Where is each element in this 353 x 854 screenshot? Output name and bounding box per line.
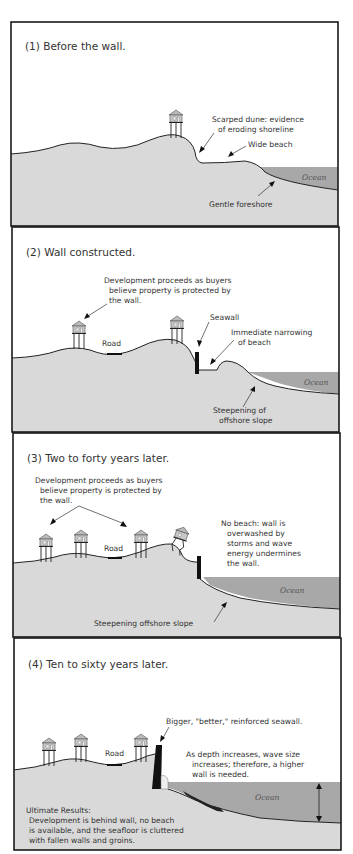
panel-2-title: (2) Wall constructed.: [26, 246, 135, 258]
depth-label-2: increases; therefore, a higher: [192, 760, 305, 769]
house-icon: [39, 534, 53, 562]
house-icon: [169, 110, 183, 138]
road-label: Road: [105, 749, 124, 758]
ultimate-results-line-4: with fallen walls and groins.: [29, 836, 135, 845]
house-icon: [42, 738, 56, 766]
gentle-foreshore-label: Gentle foreshore: [209, 200, 273, 209]
steepening-label-2: offshore slope: [219, 416, 273, 425]
panel-4-title: (4) Ten to sixty years later.: [28, 658, 168, 670]
scarped-dune-label-2: of eroding shoreline: [218, 125, 294, 134]
riprap-icon: [161, 776, 168, 790]
development-label-2: believe property is protected by: [40, 486, 162, 495]
depth-label: As depth increases, wave size: [186, 750, 300, 759]
panel-1-before-wall: (1) Before the wall. Scarped dune: evide…: [11, 22, 338, 226]
road-label: Road: [104, 544, 123, 553]
panel-3-two-to-forty-years: (3) Two to forty years later. Developmen…: [13, 433, 340, 637]
ultimate-results-line-3: is available, and the seafloor is clutte…: [29, 826, 184, 835]
panel-2-wall-constructed: (2) Wall constructed. Development procee…: [12, 227, 339, 432]
no-beach-label-4: energy undermines: [227, 549, 301, 558]
bigger-seawall-label: Bigger, "better," reinforced seawall.: [166, 717, 302, 726]
no-beach-label-5: the wall.: [227, 559, 259, 568]
panel-3-ocean-label: Ocean: [280, 586, 304, 595]
house-icon: [74, 530, 88, 558]
wide-beach-label: Wide beach: [248, 140, 293, 149]
no-beach-label: No beach: wall is: [221, 519, 285, 528]
development-label-3: the wall.: [40, 496, 72, 505]
development-label-2: believe property is protected by: [109, 286, 231, 295]
no-beach-label-2: overwashed by: [227, 529, 285, 538]
ultimate-results-label: Ultimate Results:: [26, 806, 91, 815]
seawall-icon: [197, 556, 201, 579]
house-icon: [170, 316, 184, 344]
steepening-slope-label: Steepening offshore slope: [94, 619, 193, 628]
panel-3-title: (3) Two to forty years later.: [27, 452, 169, 464]
house-icon: [74, 734, 88, 762]
narrowing-label: Immediate narrowing: [231, 328, 313, 337]
road-label: Road: [102, 339, 121, 348]
development-label: Development proceeds as buyers: [35, 476, 163, 485]
no-beach-label-3: storms and wave: [227, 539, 292, 548]
house-icon: [72, 321, 86, 349]
seawall-label: Seawall: [210, 313, 239, 322]
panel-4-ocean-label: Ocean: [255, 793, 279, 802]
scarped-dune-label: Scarped dune: evidence: [212, 115, 304, 124]
development-label: Development proceeds as buyers: [104, 276, 232, 285]
seawall-icon: [195, 352, 199, 374]
panel-1-ocean-label: Ocean: [302, 173, 326, 182]
depth-label-3: wall is needed.: [192, 770, 249, 779]
panel-1-title: (1) Before the wall.: [25, 40, 126, 52]
panel-2-ocean-label: Ocean: [304, 378, 328, 387]
ultimate-results-line-2: Development is behind wall, no beach: [29, 816, 175, 825]
panel-4-ten-to-sixty-years: (4) Ten to sixty years later. Bigger, "b…: [14, 638, 341, 850]
house-icon: [134, 734, 148, 762]
steepening-label: Steepening of: [213, 406, 266, 415]
development-label-3: the wall.: [109, 296, 141, 305]
seawall-diagram: (1) Before the wall. Scarped dune: evide…: [0, 0, 353, 854]
house-icon: [134, 530, 148, 558]
narrowing-label-2: of beach: [238, 338, 271, 347]
